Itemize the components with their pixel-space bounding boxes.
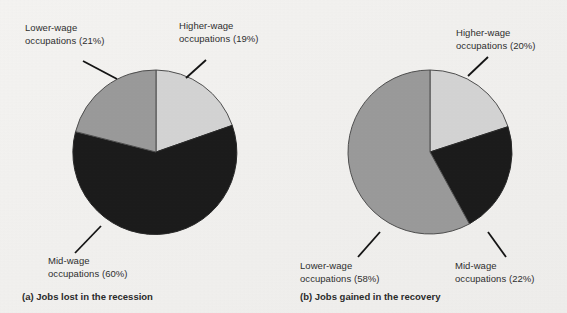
label-lower-wage-b: Lower-wage occupations (58%) [300, 260, 380, 285]
leader-line-higher-wage-b [468, 57, 488, 76]
leader-line-mid-wage-a [75, 226, 101, 253]
figure-panel: Lower-wage occupations (21%) Higher-wage… [0, 0, 567, 313]
label-higher-wage-b: Higher-wage occupations (20%) [456, 27, 536, 52]
caption-chart-b: (b) Jobs gained in the recovery [300, 291, 440, 304]
caption-chart-a: (a) Jobs lost in the recession [22, 291, 153, 304]
pie-chart-recovery [348, 57, 512, 257]
pie-chart-recession [73, 60, 237, 253]
label-higher-wage-a: Higher-wage occupations (19%) [179, 20, 259, 45]
label-mid-wage-b: Mid-wage occupations (22%) [455, 260, 535, 285]
label-mid-wage-a: Mid-wage occupations (60%) [48, 255, 128, 280]
label-lower-wage-a: Lower-wage occupations (21%) [25, 22, 105, 47]
leader-line-mid-wage-b [488, 232, 506, 257]
leader-line-lower-wage-a [83, 61, 117, 79]
leader-line-higher-wage-a [186, 60, 206, 78]
leader-line-lower-wage-b [358, 232, 380, 257]
